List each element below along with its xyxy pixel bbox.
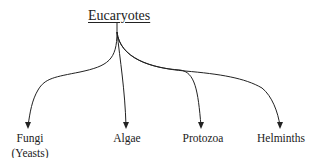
edge-to-fungi: [28, 32, 117, 126]
node-protozoa: Protozoa: [183, 131, 224, 146]
arrowhead-protozoa: [198, 122, 204, 129]
node-fungi-sublabel: (Yeasts): [11, 146, 48, 158]
edge-to-helminths: [117, 32, 280, 126]
edge-to-protozoa: [117, 32, 201, 126]
node-algae: Algae: [113, 131, 140, 146]
node-fungi-label: Fungi: [11, 131, 48, 146]
node-fungi: Fungi (Yeasts): [11, 131, 48, 158]
node-helminths: Helminths: [257, 131, 305, 146]
arrowhead-algae: [123, 122, 129, 129]
arrowhead-fungi: [25, 122, 31, 129]
arrowhead-helminths: [277, 122, 283, 129]
